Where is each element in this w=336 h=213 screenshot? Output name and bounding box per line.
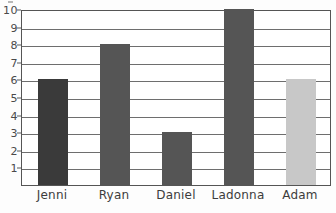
x-tick-label: Ladonna	[212, 188, 265, 202]
y-tick-label: 6	[0, 75, 18, 86]
y-axis: 12345678910	[0, 10, 18, 186]
y-tick-label: 7	[0, 57, 18, 68]
x-axis: JenniRyanDanielLadonnaAdam	[21, 188, 331, 210]
bar	[224, 9, 254, 185]
x-tick-label: Adam	[282, 188, 317, 202]
x-tick-label: Ryan	[99, 188, 130, 202]
y-tick-label: 9	[0, 22, 18, 33]
plot-area	[21, 10, 331, 186]
y-tick-label: 3	[0, 128, 18, 139]
y-tick-label: 10	[0, 5, 18, 16]
bar	[38, 79, 68, 185]
x-tick-label: Daniel	[156, 188, 195, 202]
bars-layer	[22, 11, 330, 185]
bar-chart: 12345678910 JenniRyanDanielLadonnaAdam	[0, 0, 336, 213]
x-tick-label: Jenni	[37, 188, 67, 202]
y-tick-label: 5	[0, 93, 18, 104]
y-tick-label: 2	[0, 145, 18, 156]
y-tick-label: 4	[0, 110, 18, 121]
bar	[162, 132, 192, 185]
y-tick-label: 8	[0, 40, 18, 51]
y-tick-label: 1	[0, 163, 18, 174]
bar	[286, 79, 316, 185]
bar	[100, 44, 130, 185]
